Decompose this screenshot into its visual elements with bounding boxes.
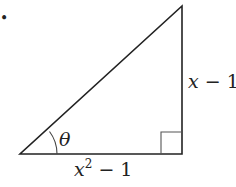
right-angle-marker bbox=[161, 132, 182, 154]
angle-label: θ bbox=[59, 128, 71, 150]
angle-arc bbox=[50, 132, 58, 155]
bullet-marker: • bbox=[0, 10, 8, 26]
triangle-diagram: • θ x − 1 x2 − 1 bbox=[0, 0, 236, 187]
horizontal-side-label: x2 − 1 bbox=[74, 157, 132, 180]
triangle bbox=[20, 6, 182, 154]
vertical-side-label: x − 1 bbox=[188, 70, 236, 92]
